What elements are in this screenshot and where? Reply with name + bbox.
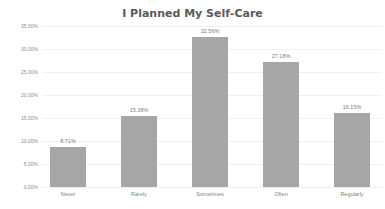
chart-title: I Planned My Self-Care [0, 7, 385, 20]
bar-never [50, 147, 86, 187]
y-tick: 5.00% [0, 161, 38, 167]
y-tick: 25.00% [0, 69, 38, 75]
x-tick: Rarely [109, 191, 169, 197]
x-tick: Sometimes [180, 191, 240, 197]
x-tick: Often [251, 191, 311, 197]
bar-regularly [334, 113, 370, 187]
y-tick: 35.00% [0, 23, 38, 29]
x-tick: Regularly [322, 191, 382, 197]
y-tick: 15.00% [0, 115, 38, 121]
x-tick: Never [38, 191, 98, 197]
value-label: 15.38% [114, 107, 164, 113]
bar-rarely [121, 116, 157, 187]
bar-sometimes [192, 37, 228, 187]
bar-often [263, 62, 299, 187]
value-label: 27.18% [256, 53, 306, 59]
y-tick: 10.00% [0, 138, 38, 144]
y-tick: 0.00% [0, 184, 38, 190]
y-tick: 30.00% [0, 46, 38, 52]
y-tick: 20.00% [0, 92, 38, 98]
value-label: 16.15% [327, 104, 377, 110]
value-label: 32.56% [185, 28, 235, 34]
gridline [42, 26, 382, 27]
gridline [42, 187, 382, 188]
value-label: 8.71% [43, 138, 93, 144]
